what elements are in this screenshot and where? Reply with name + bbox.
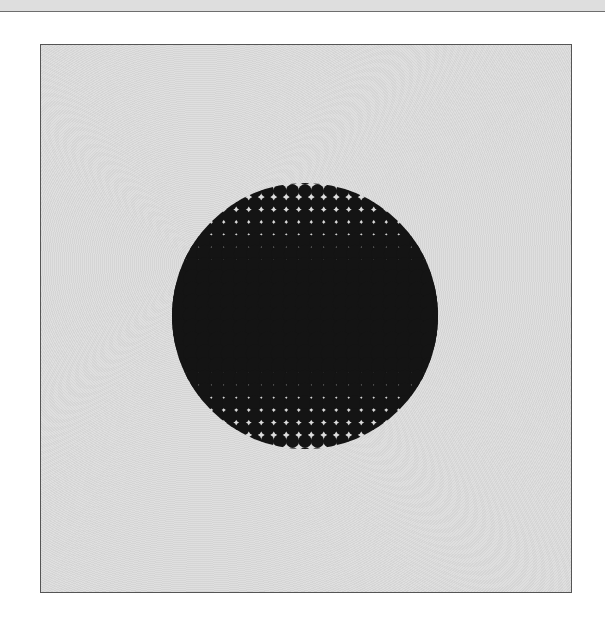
halftone-circle-graphic [0,0,605,636]
